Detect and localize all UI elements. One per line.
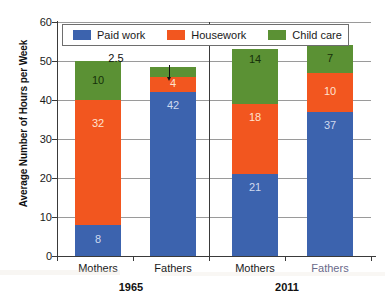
bar-segment-label: 32 (75, 118, 121, 129)
bar-segment-label: 21 (232, 182, 278, 193)
y-tick-label-50: 50 (30, 56, 52, 67)
x-group-label-1965: 1965 (86, 281, 176, 293)
y-tick-label-40: 40 (30, 95, 52, 106)
stacked-bar-chart: Average Number of Hours per Week 60 50 4… (0, 0, 385, 302)
bar-fathers-1965[interactable]: 4 42 (150, 67, 196, 256)
bar-fathers-2011[interactable]: 7 10 37 (307, 45, 353, 256)
bar-segment-child-care[interactable] (150, 67, 196, 77)
bar-segment-label: 4 (150, 78, 196, 89)
legend-label: Housework (191, 29, 246, 41)
gridline-60 (57, 22, 371, 23)
bar-segment-paid-work[interactable]: 37 (307, 112, 353, 256)
legend-label: Child care (292, 29, 342, 41)
legend-item-housework[interactable]: Housework (167, 29, 246, 41)
bar-segment-label: 10 (307, 86, 353, 97)
bar-segment-label: 8 (75, 234, 121, 245)
x-label-fathers-1965: Fathers (138, 262, 208, 274)
bar-segment-paid-work[interactable]: 21 (232, 174, 278, 256)
y-tick-label-60: 60 (30, 17, 52, 28)
y-tick-label-0: 0 (30, 251, 52, 262)
bar-segment-label: 18 (232, 112, 278, 123)
annotation-2-5-label: 2.5 (96, 53, 136, 64)
legend-label: Paid work (97, 29, 145, 41)
legend-item-child-care[interactable]: Child care (268, 29, 342, 41)
bar-segment-housework[interactable]: 18 (232, 104, 278, 174)
bar-segment-child-care[interactable]: 10 (75, 61, 121, 100)
bar-segment-paid-work[interactable]: 42 (150, 92, 196, 256)
bar-segment-housework[interactable]: 10 (307, 73, 353, 112)
bar-segment-child-care[interactable]: 14 (232, 49, 278, 104)
bar-segment-label: 10 (75, 75, 121, 86)
legend-item-paid-work[interactable]: Paid work (73, 29, 145, 41)
legend-swatch-icon (268, 30, 286, 40)
bar-segment-label: 42 (150, 100, 196, 111)
legend-swatch-icon (73, 30, 91, 40)
x-group-label-2011: 2011 (242, 281, 332, 293)
legend-swatch-icon (167, 30, 185, 40)
bar-mothers-1965[interactable]: 10 32 8 (75, 61, 121, 256)
bar-mothers-2011[interactable]: 14 18 21 (232, 49, 278, 256)
x-label-mothers-2011: Mothers (220, 262, 290, 274)
bar-segment-child-care[interactable]: 7 (307, 45, 353, 72)
y-tick-label-30: 30 (30, 134, 52, 145)
x-label-fathers-2011: Fathers (295, 262, 365, 274)
y-tick-label-20: 20 (30, 173, 52, 184)
y-axis-line (57, 21, 58, 257)
bar-segment-label: 7 (307, 53, 353, 64)
bar-segment-paid-work[interactable]: 8 (75, 225, 121, 256)
annotation-arrow-icon (167, 77, 171, 81)
x-axis-line (52, 256, 376, 257)
group-divider-line (209, 22, 210, 257)
bar-segment-housework[interactable]: 32 (75, 100, 121, 225)
legend: Paid work Housework Child care (62, 24, 349, 46)
y-axis-title: Average Number of Hours per Week (18, 9, 29, 239)
x-label-mothers-1965: Mothers (63, 262, 133, 274)
bar-segment-label: 14 (232, 54, 278, 65)
bar-segment-label: 37 (307, 120, 353, 131)
y-tick-label-10: 10 (30, 212, 52, 223)
bar-segment-housework[interactable]: 4 (150, 77, 196, 93)
